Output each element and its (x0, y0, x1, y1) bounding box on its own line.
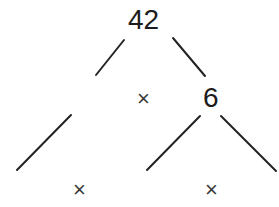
times-sign-left-pair: × (73, 179, 86, 201)
branch-6-right (221, 116, 276, 171)
branch-6-left (147, 116, 200, 170)
times-sign-right-pair: × (205, 179, 218, 201)
node-6: 6 (203, 84, 219, 112)
times-sign-level1: × (137, 88, 150, 110)
root-node-42: 42 (128, 6, 159, 34)
branch-42-right (173, 38, 205, 76)
branch-42-left (96, 40, 124, 75)
branch-left-leaf (17, 115, 71, 170)
